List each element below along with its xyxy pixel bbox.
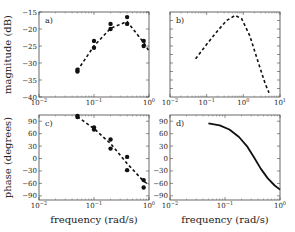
fit-curve — [196, 15, 269, 92]
fit-curve — [77, 22, 149, 71]
x-tick-label: 10−1 — [199, 97, 215, 107]
data-point — [125, 168, 129, 172]
x-tick-label: 100 — [143, 97, 155, 107]
panel-label: c) — [45, 119, 53, 128]
y-tick-label: −35 — [22, 77, 37, 85]
data-point — [108, 22, 112, 26]
x-tick-label: 10−2 — [162, 200, 178, 210]
data-point — [141, 185, 145, 189]
y-tick-label: 0 — [33, 155, 37, 163]
x-axis-label: frequency (rad/s) — [181, 214, 269, 225]
panel-c: 10−210−11009060300−30−60−90c)phase (degr… — [2, 114, 155, 225]
data-point — [108, 137, 112, 141]
x-tick-label: 10−2 — [162, 97, 178, 107]
x-axis-label: frequency (rad/s) — [50, 214, 138, 225]
axes-frame — [170, 12, 280, 97]
y-tick-label: −30 — [22, 167, 37, 175]
axes-frame — [39, 12, 149, 97]
data-point — [92, 39, 96, 43]
y-tick-label: −30 — [22, 60, 37, 68]
y-tick-label: −90 — [153, 192, 168, 200]
y-tick-label: 90 — [159, 118, 168, 126]
data-point — [125, 155, 129, 159]
x-tick-label: 10−1 — [86, 97, 102, 107]
bode-figure: 10−210−1100−40−35−30−25−20−15a)magnitude… — [0, 0, 295, 232]
x-tick-label: 100 — [274, 200, 286, 210]
panel-a: 10−210−1100−40−35−30−25−20−15a)magnitude… — [2, 9, 155, 108]
y-tick-label: 30 — [28, 143, 37, 151]
x-tick-label: 100 — [143, 200, 155, 210]
y-tick-label: −60 — [22, 180, 37, 188]
y-tick-label: −40 — [22, 94, 37, 102]
x-tick-label: 10−2 — [31, 200, 47, 210]
x-tick-label: 101 — [274, 97, 286, 107]
panel-b: 10−210−1100101b) — [162, 12, 286, 107]
y-axis-label: magnitude (dB) — [2, 15, 13, 94]
data-point — [108, 146, 112, 150]
y-tick-label: 90 — [28, 118, 37, 126]
panel-label: a) — [45, 16, 53, 25]
y-tick-label: −30 — [153, 167, 168, 175]
fit-curve — [77, 117, 149, 185]
panel-label: b) — [176, 16, 184, 25]
y-tick-label: −90 — [22, 192, 37, 200]
y-tick-label: 0 — [164, 155, 168, 163]
x-tick-label: 100 — [237, 97, 249, 107]
data-point — [125, 15, 129, 19]
y-tick-label: 60 — [159, 130, 168, 138]
x-tick-label: 10−1 — [86, 200, 102, 210]
y-tick-label: −60 — [153, 180, 168, 188]
y-axis-label: phase (degrees) — [2, 117, 13, 198]
y-tick-label: −25 — [22, 43, 37, 51]
y-tick-label: 30 — [159, 143, 168, 151]
panel-label: d) — [176, 119, 184, 128]
model-curve — [208, 123, 280, 189]
x-tick-label: 10−1 — [217, 200, 233, 210]
y-tick-label: 60 — [28, 130, 37, 138]
y-tick-label: −15 — [22, 9, 37, 17]
y-tick-label: −20 — [22, 26, 37, 34]
panel-d: 10−210−11009060300−30−60−90d)frequency (… — [153, 115, 286, 225]
